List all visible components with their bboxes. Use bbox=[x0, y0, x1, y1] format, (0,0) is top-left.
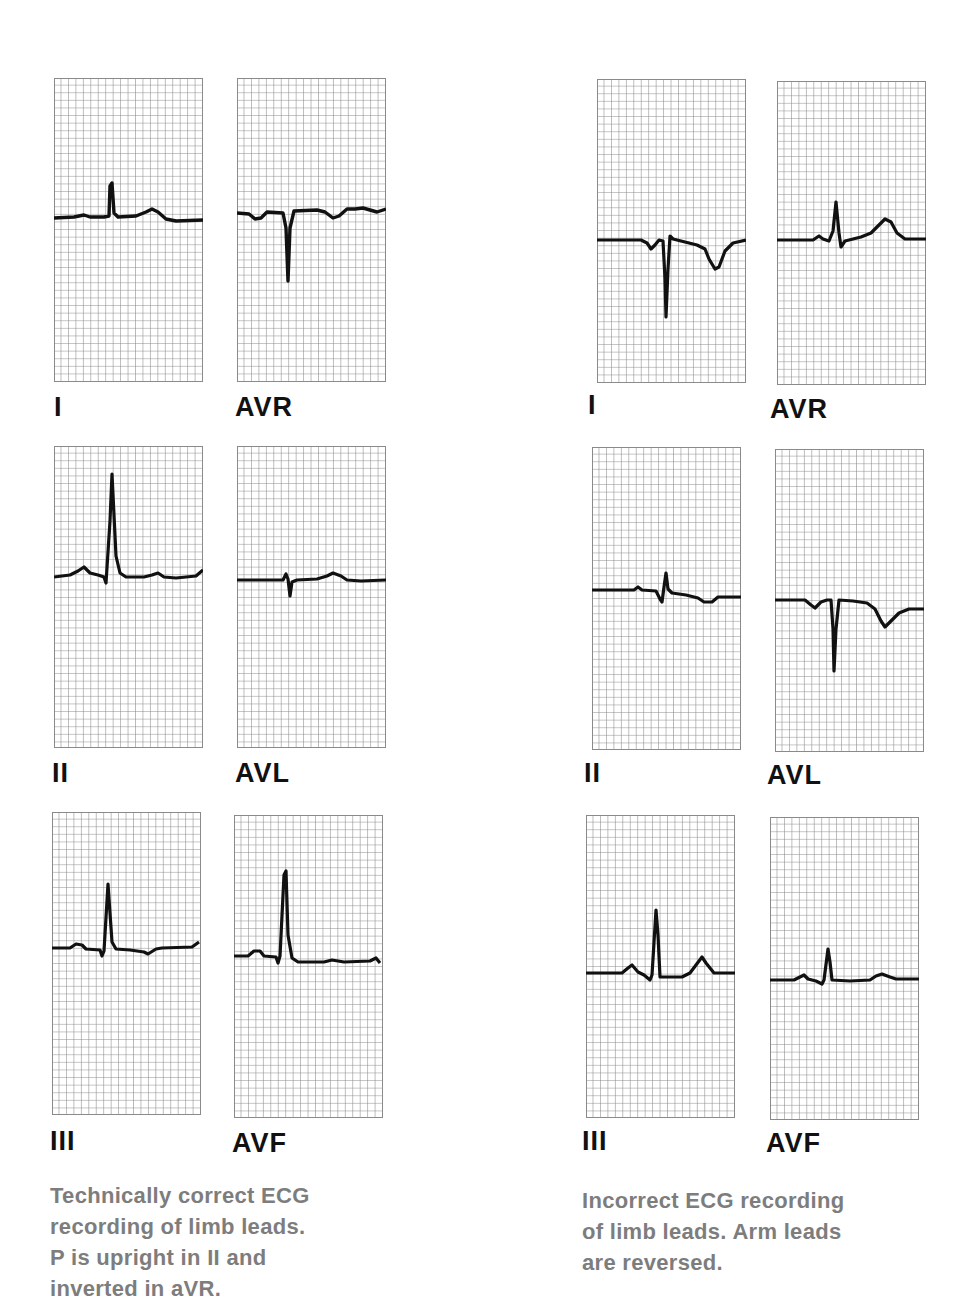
lead-label-correct-avl: AVL bbox=[235, 760, 290, 787]
ecg-trace bbox=[775, 449, 924, 752]
ecg-panel-incorrect-lead-avf bbox=[770, 817, 919, 1121]
caption-line: recording of limb leads. bbox=[50, 1211, 310, 1242]
ecg-trace bbox=[54, 78, 203, 382]
ecg-trace bbox=[777, 81, 926, 385]
ecg-panel-incorrect-lead-i bbox=[597, 79, 746, 383]
lead-label-correct-i: I bbox=[54, 394, 63, 421]
ecg-trace bbox=[52, 812, 201, 1115]
caption-line: Technically correct ECG bbox=[50, 1180, 310, 1211]
ecg-panel-correct-lead-avf bbox=[234, 815, 383, 1119]
caption-correct: Technically correct ECG recording of lim… bbox=[50, 1180, 310, 1300]
caption-incorrect: Incorrect ECG recording of limb leads. A… bbox=[582, 1185, 844, 1278]
lead-label-incorrect-iii: III bbox=[582, 1128, 608, 1155]
ecg-panel-correct-lead-iii bbox=[52, 812, 201, 1116]
caption-line: P is upright in II and bbox=[50, 1242, 310, 1273]
ecg-panel-incorrect-lead-avl bbox=[775, 449, 924, 753]
lead-label-incorrect-avf: AVF bbox=[766, 1130, 821, 1157]
ecg-panel-incorrect-lead-iii bbox=[586, 815, 735, 1119]
lead-label-incorrect-ii: II bbox=[584, 760, 601, 787]
ecg-panel-correct-lead-avl bbox=[237, 446, 386, 750]
ecg-trace bbox=[54, 446, 203, 748]
lead-label-correct-avr: AVR bbox=[235, 394, 293, 421]
caption-line: inverted in aVR. bbox=[50, 1273, 310, 1300]
caption-line: Incorrect ECG recording bbox=[582, 1185, 844, 1216]
ecg-panel-correct-lead-ii bbox=[54, 446, 203, 750]
ecg-panel-correct-lead-i bbox=[54, 78, 203, 382]
lead-label-correct-iii: III bbox=[50, 1128, 76, 1155]
caption-line: are reversed. bbox=[582, 1247, 844, 1278]
lead-label-correct-ii: II bbox=[52, 760, 69, 787]
caption-line: of limb leads. Arm leads bbox=[582, 1216, 844, 1247]
lead-label-correct-avf: AVF bbox=[232, 1130, 287, 1157]
ecg-panel-incorrect-lead-ii bbox=[592, 447, 741, 751]
ecg-panel-correct-lead-avr bbox=[237, 78, 386, 382]
ecg-trace bbox=[592, 447, 741, 750]
ecg-trace bbox=[237, 446, 386, 748]
ecg-panel-incorrect-lead-avr bbox=[777, 81, 926, 385]
ecg-trace bbox=[237, 78, 386, 382]
lead-label-incorrect-avr: AVR bbox=[770, 396, 828, 423]
ecg-trace bbox=[597, 79, 746, 383]
ecg-trace bbox=[586, 815, 735, 1118]
lead-label-incorrect-avl: AVL bbox=[767, 762, 822, 789]
ecg-trace bbox=[770, 817, 919, 1120]
ecg-trace bbox=[234, 815, 383, 1118]
lead-label-incorrect-i: I bbox=[588, 392, 597, 419]
